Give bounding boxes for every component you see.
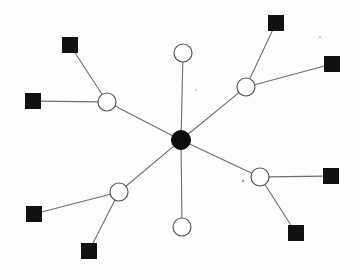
graph-node-circle[interactable]: [174, 44, 192, 62]
graph-node-circle[interactable]: [110, 183, 128, 201]
node-layer: [26, 16, 340, 259]
graph-node-circle[interactable]: [98, 93, 116, 111]
graph-edge: [41, 101, 99, 102]
scan-artifact-speck: [319, 36, 321, 38]
graph-edge: [190, 144, 252, 173]
scan-artifact-speck: [195, 89, 196, 90]
graph-node-square[interactable]: [289, 226, 304, 241]
graph-edge: [181, 62, 183, 131]
speck-layer: [195, 36, 321, 182]
graph-edge: [75, 53, 102, 95]
graph-node-circle[interactable]: [237, 78, 255, 96]
graph-node-circle[interactable]: [173, 218, 191, 236]
graph-node-square[interactable]: [325, 57, 340, 72]
graph-node-square[interactable]: [26, 94, 41, 109]
scan-artifact-speck: [242, 180, 244, 182]
network-diagram-canvas: [0, 0, 358, 276]
graph-node-square[interactable]: [324, 169, 339, 184]
graph-edge: [126, 146, 174, 186]
graph-edge: [255, 66, 325, 85]
graph-edge: [115, 106, 173, 136]
graph-node-square[interactable]: [27, 207, 42, 222]
graph-edge: [250, 31, 273, 79]
graph-node-square[interactable]: [63, 38, 78, 53]
graph-edge: [93, 200, 115, 243]
graph-node-square[interactable]: [82, 244, 97, 259]
network-graph: [0, 0, 358, 276]
graph-edge: [269, 176, 324, 177]
graph-node-circle[interactable]: [251, 168, 269, 186]
graph-edge: [181, 150, 182, 219]
graph-node-square[interactable]: [269, 16, 284, 31]
graph-edge: [188, 93, 239, 134]
graph-edge: [265, 185, 291, 226]
graph-node-hub[interactable]: [172, 131, 191, 150]
graph-edge: [42, 194, 111, 212]
